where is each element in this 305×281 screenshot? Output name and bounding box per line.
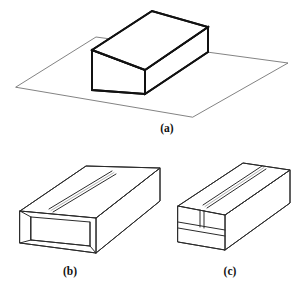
figure-svg: (a) (b) (c) [0,0,305,281]
panel-label-b: (b) [63,265,77,278]
panel-c-group [178,163,290,250]
panel-b-group [20,166,160,253]
technical-figure: (a) (b) (c) [0,0,305,281]
panel-label-c: (c) [224,265,237,278]
panel-a-group [16,11,288,117]
panel-label-a: (a) [160,122,174,135]
